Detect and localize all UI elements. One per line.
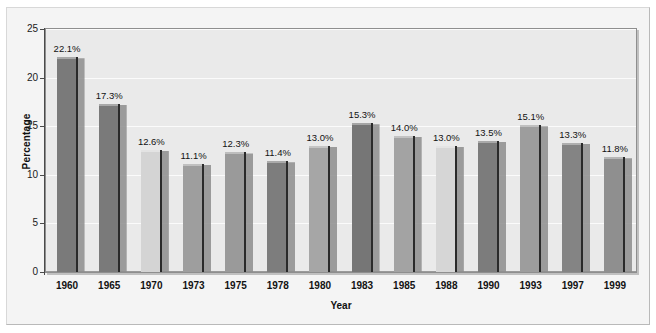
bar-body [394, 136, 415, 272]
bar-top-highlight [604, 157, 623, 159]
bar-1978[interactable] [267, 161, 288, 272]
bar-body [57, 57, 78, 272]
bar-top-highlight [394, 136, 413, 138]
bar-body [520, 125, 541, 272]
bar-value-label-1985: 14.0% [391, 123, 418, 133]
bar-top-highlight [141, 150, 160, 152]
bar-value-label-1990: 13.5% [475, 128, 502, 138]
bar-1975[interactable] [225, 152, 246, 272]
x-tick-label-1965: 1965 [98, 280, 120, 292]
bar-body [604, 157, 625, 272]
x-axis-title: Year [45, 300, 637, 311]
y-axis-tick-group: 0510152025 [7, 8, 38, 333]
bar-value-label-1960: 22.1% [54, 44, 81, 54]
bar-body [478, 141, 499, 272]
bar-top-highlight [183, 164, 202, 166]
plot-inner: 22.1%17.3%12.6%11.1%12.3%11.4%13.0%15.3%… [46, 29, 636, 272]
gridline-25 [46, 29, 636, 30]
chart-frame: Percentage 0510152025 22.1%17.3%12.6%11.… [6, 7, 650, 325]
bar-top-highlight [309, 146, 328, 148]
x-tick-label-1960: 1960 [56, 280, 78, 292]
x-tick-label-1980: 1980 [309, 280, 331, 292]
bar-value-label-1973: 11.1% [180, 151, 206, 161]
bar-value-label-1983: 15.3% [349, 110, 376, 120]
bar-value-label-1999: 11.8% [602, 144, 628, 154]
bar-value-label-1997: 13.3% [559, 130, 586, 140]
bar-value-label-1965: 17.3% [96, 91, 123, 101]
bar-1965[interactable] [99, 104, 120, 272]
plot-area: 22.1%17.3%12.6%11.1%12.3%11.4%13.0%15.3%… [45, 28, 637, 273]
x-tick-label-1999: 1999 [604, 280, 626, 292]
bar-1980[interactable] [309, 146, 330, 272]
bar-top-highlight [267, 161, 286, 163]
x-tick-label-1973: 1973 [182, 280, 204, 292]
x-tick-label-1983: 1983 [351, 280, 373, 292]
bar-value-label-1978: 11.4% [265, 148, 291, 158]
x-axis-tick-group: 1960196519701973197519781980198319851988… [45, 280, 637, 296]
x-tick-label-1978: 1978 [267, 280, 289, 292]
bar-value-label-1970: 12.6% [138, 137, 165, 147]
bar-1983[interactable] [352, 123, 373, 272]
gridline-20 [46, 78, 636, 79]
x-tick-label-1988: 1988 [435, 280, 457, 292]
bar-top-highlight [57, 57, 76, 59]
y-tick-label-10: 10 [12, 170, 38, 180]
x-tick-label-1990: 1990 [477, 280, 499, 292]
bar-top-highlight [520, 125, 539, 127]
bar-body [99, 104, 120, 272]
bar-body [562, 143, 583, 272]
bar-value-label-1980: 13.0% [306, 133, 333, 143]
bar-body [225, 152, 246, 272]
bar-1960[interactable] [57, 57, 78, 272]
y-tick-label-5: 5 [12, 218, 38, 228]
bar-value-label-1988: 13.0% [433, 133, 460, 143]
bar-body [183, 164, 204, 272]
bar-1997[interactable] [562, 143, 583, 272]
bar-top-highlight [436, 146, 455, 148]
y-tick-label-25: 25 [12, 24, 38, 34]
x-tick-label-1993: 1993 [520, 280, 542, 292]
x-tick-label-1970: 1970 [140, 280, 162, 292]
bar-value-label-1993: 15.1% [517, 112, 544, 122]
x-tick-label-1997: 1997 [562, 280, 584, 292]
bar-top-highlight [99, 104, 118, 106]
bar-top-highlight [478, 141, 497, 143]
bar-body [309, 146, 330, 272]
bar-body [267, 161, 288, 272]
bar-1988[interactable] [436, 146, 457, 272]
y-tick-label-20: 20 [12, 73, 38, 83]
bar-1990[interactable] [478, 141, 499, 272]
bar-body [352, 123, 373, 272]
bar-value-label-1975: 12.3% [222, 139, 249, 149]
y-tick-label-0: 0 [12, 267, 38, 277]
bar-1985[interactable] [394, 136, 415, 272]
y-tick-label-15: 15 [12, 121, 38, 131]
bar-1973[interactable] [183, 164, 204, 272]
bar-body [141, 150, 162, 272]
bar-1999[interactable] [604, 157, 625, 272]
bar-body [436, 146, 457, 272]
bar-top-highlight [225, 152, 244, 154]
bar-top-highlight [352, 123, 371, 125]
bar-top-highlight [562, 143, 581, 145]
bar-1993[interactable] [520, 125, 541, 272]
x-tick-label-1985: 1985 [393, 280, 415, 292]
bar-1970[interactable] [141, 150, 162, 272]
x-tick-label-1975: 1975 [225, 280, 247, 292]
